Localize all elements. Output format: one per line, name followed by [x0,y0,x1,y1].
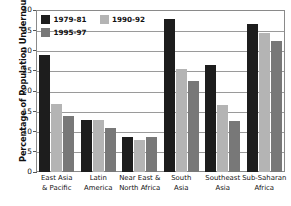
bar [247,24,258,172]
legend-item-1: 1990-92 [100,15,146,24]
legend-swatch-1 [100,15,109,24]
legend-row-bottom: 1995-97 [41,26,161,39]
legend-label-1: 1990-92 [112,15,145,24]
bar-group [247,10,282,172]
bar [134,140,145,172]
bar [229,121,240,172]
bar [63,116,74,172]
bar [93,120,104,172]
x-axis-label-line: Sub-Saharan [234,174,291,184]
bar-group [205,10,240,172]
legend-row-top: 1979-81 1990-92 [41,13,161,26]
x-axis-category-labels: East Asia& PacificLatinAmericaNear East … [36,174,285,206]
legend-item-0: 1979-81 [41,15,87,24]
bar [39,55,50,172]
legend-item-2: 1995-97 [41,28,87,37]
bar [164,19,175,172]
bar [122,137,133,172]
bar [105,128,116,172]
undernourishment-bar-chart: Percentage of Population Undernourished … [0,0,291,206]
x-axis-label-line: Africa [234,184,291,194]
bar [51,104,62,172]
bar-group [164,10,199,172]
bar [205,65,216,172]
legend-label-0: 1979-81 [54,15,87,24]
bar [188,81,199,172]
bar [271,41,282,172]
bar [146,137,157,172]
legend-swatch-0 [41,15,50,24]
y-axis-title: Percentage of Population Undernourished [18,0,28,162]
legend-swatch-2 [41,28,50,37]
x-axis-label: Sub-SaharanAfrica [234,174,291,193]
bar [259,33,270,172]
chart-legend: 1979-81 1990-92 1995-97 [41,13,161,39]
bar [217,105,228,172]
bar [176,69,187,172]
legend-label-2: 1995-97 [54,28,87,37]
bar [81,120,92,172]
